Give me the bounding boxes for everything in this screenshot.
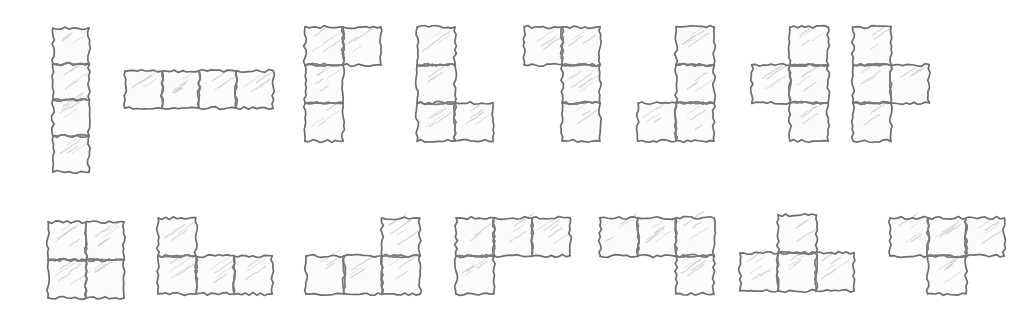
shape-T-tetromino-right-nub bbox=[847, 21, 935, 147]
shape-S-tetromino-offset-row bbox=[594, 212, 720, 300]
shape-I-tetromino-vertical bbox=[47, 22, 95, 178]
shape-O-tetromino-square bbox=[42, 216, 130, 304]
shape-L-tetromino-bottom-right bbox=[411, 21, 499, 147]
shape-J-tetromino-top-left bbox=[299, 21, 387, 147]
shape-J-tetromino-row-with-left-bottom bbox=[450, 212, 576, 300]
shape-S-tetromino-step bbox=[734, 209, 860, 297]
shape-L-tetromino-row-with-right-top bbox=[300, 212, 426, 300]
shape-I-tetromino-horizontal bbox=[119, 65, 279, 114]
shape-J-tetromino-top-right bbox=[518, 21, 606, 147]
shape-T-tetromino-down-nub bbox=[884, 212, 1010, 300]
tetromino-sheet bbox=[0, 0, 1036, 314]
shape-T-tetromino-left-nub bbox=[746, 21, 834, 147]
shape-J-tetromino-row-with-left-top bbox=[152, 212, 278, 300]
shape-J-tetromino-bottom-left bbox=[632, 21, 720, 147]
